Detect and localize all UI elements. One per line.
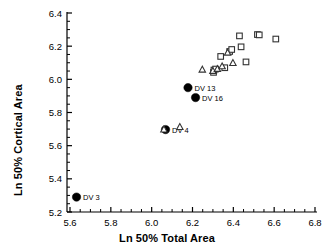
- data-point-filled-circle: [72, 193, 80, 201]
- y-axis-tick-label: 5.4: [49, 173, 62, 184]
- data-point-open-square: [218, 54, 224, 60]
- y-axis-tick-label: 5.2: [49, 207, 62, 218]
- x-axis-title: Ln 50% Total Area: [0, 232, 334, 244]
- y-axis-tick-label: 5.6: [49, 140, 62, 151]
- data-point-open-square: [237, 33, 243, 39]
- y-axis-title: Ln 50% Cortical Area: [12, 84, 24, 196]
- data-point-label: DV 16: [202, 94, 223, 103]
- data-point-open-square: [238, 44, 244, 50]
- x-axis-tick-label: 5.6: [63, 217, 76, 228]
- data-point-label: DV 3: [83, 193, 100, 202]
- data-point-open-triangle: [199, 66, 205, 72]
- x-axis-tick-label: 6.0: [145, 217, 158, 228]
- data-point-open-square: [256, 32, 262, 38]
- x-axis-tick-label: 6.6: [268, 217, 281, 228]
- data-point-open-square: [229, 47, 235, 53]
- x-axis-tick-label: 5.8: [104, 217, 117, 228]
- scatter-plot-figure: 5.65.86.06.26.46.66.85.25.45.65.86.06.26…: [0, 0, 334, 252]
- data-point-open-triangle: [230, 60, 236, 66]
- y-axis-tick-label: 5.8: [49, 107, 62, 118]
- data-point-open-square: [273, 36, 279, 42]
- y-axis-tick-label: 6.0: [49, 74, 62, 85]
- data-point-filled-circle: [191, 93, 199, 101]
- x-axis-tick-label: 6.4: [227, 217, 240, 228]
- data-point-open-square: [243, 59, 249, 65]
- plot-canvas: 5.65.86.06.26.46.66.85.25.45.65.86.06.26…: [0, 0, 334, 252]
- data-markers: DV 3DV 4DV 13DV 16: [72, 32, 278, 202]
- data-point-label: DV 13: [195, 84, 216, 93]
- x-axis-tick-label: 6.8: [308, 217, 321, 228]
- x-axis-tick-label: 6.2: [186, 217, 199, 228]
- data-point-filled-circle: [184, 83, 192, 91]
- y-axis-tick-label: 6.2: [49, 41, 62, 52]
- y-axis-tick-label: 6.4: [49, 8, 62, 19]
